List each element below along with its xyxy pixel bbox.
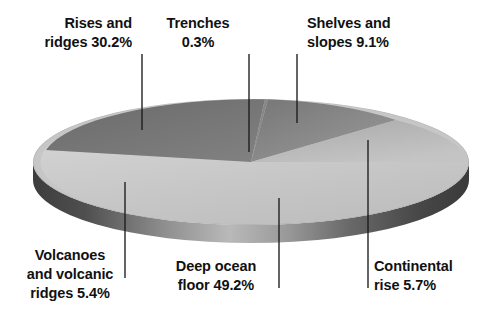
slice-label-continental-rise: Continental rise 5.7% <box>374 257 474 295</box>
slice-label-shelves-and-slopes: Shelves and slopes 9.1% <box>307 14 437 52</box>
pie-top-surface <box>33 99 469 225</box>
slice-label-trenches: Trenches 0.3% <box>156 14 240 52</box>
slice-label-deep-ocean-floor: Deep ocean floor 49.2% <box>160 257 272 295</box>
slice-label-rises-and-ridges: Rises and ridges 30.2% <box>16 14 132 52</box>
slice-label-volcanoes-and-volcanic-ridges: Volcanoes and volcanic ridges 5.4% <box>18 246 122 303</box>
pie-chart: Rises and ridges 30.2% Trenches 0.3% She… <box>0 0 480 318</box>
